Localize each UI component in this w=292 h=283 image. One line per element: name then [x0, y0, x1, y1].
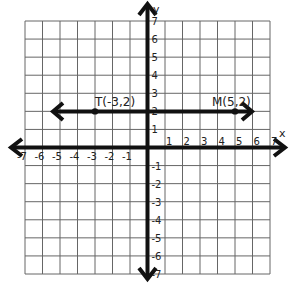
- y-tick-label: 3: [152, 88, 158, 99]
- y-tick-label: -4: [152, 215, 162, 226]
- x-tick-label: 7: [271, 136, 277, 147]
- x-tick-label: -1: [122, 151, 132, 162]
- y-tick-label: 7: [152, 16, 158, 27]
- x-tick-label: -6: [35, 151, 45, 162]
- x-tick-label: -7: [17, 151, 27, 162]
- x-tick-label: 4: [219, 136, 225, 147]
- x-tick-label: 6: [254, 136, 260, 147]
- y-tick-label: -6: [152, 251, 162, 262]
- y-tick-label: -3: [152, 197, 162, 208]
- x-tick-label: -3: [87, 151, 97, 162]
- y-tick-label: -1: [152, 161, 162, 172]
- x-tick-label: 2: [184, 136, 190, 147]
- coordinate-plane: x y -7-6-5-4-3-2-11234567 7654321-1-2-3-…: [0, 0, 292, 283]
- x-tick-label: -2: [105, 151, 115, 162]
- x-tick-label: -5: [52, 151, 62, 162]
- x-tick-label: 1: [166, 136, 172, 147]
- y-tick-label: -5: [152, 233, 162, 244]
- y-tick-label: 4: [152, 70, 158, 81]
- point-m-label: M(5,2): [212, 95, 251, 109]
- y-tick-label: -7: [152, 269, 162, 280]
- y-axis-label: y: [153, 3, 160, 16]
- point-t-label: T(-3,2): [94, 95, 135, 109]
- y-tick-label: -2: [152, 179, 162, 190]
- y-tick-label: 1: [152, 124, 158, 135]
- y-tick-label: 6: [152, 34, 158, 45]
- x-tick-label: -4: [70, 151, 80, 162]
- y-tick-label: 5: [152, 52, 158, 63]
- x-tick-label: 3: [201, 136, 207, 147]
- x-tick-label: 5: [236, 136, 242, 147]
- x-axis-label: x: [279, 127, 286, 140]
